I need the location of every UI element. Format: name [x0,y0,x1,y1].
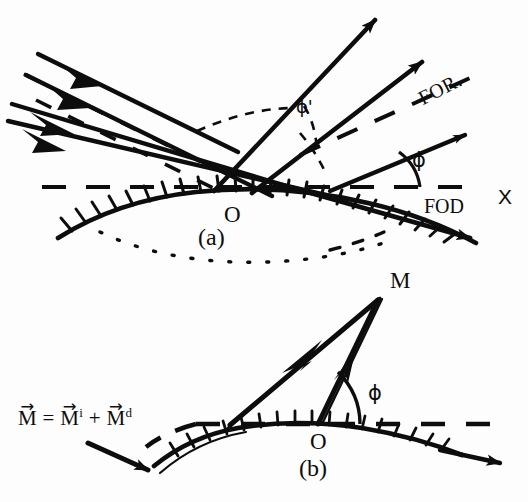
vector-arrow-icon: → [63,399,77,415]
panel-a-specular-ray [252,62,422,193]
formula-equals: = [43,406,55,430]
panel-a-reflected-ray-steep [214,20,375,191]
panel-b-surface-arrow [440,450,500,463]
panel-b-vector-tip-label: M [390,269,410,292]
panel-a-surface [58,189,476,243]
panel-b-origin-label: O [310,430,327,453]
panel-a-origin-label: O [224,203,241,226]
formula-term1-vector: →M [60,408,79,429]
panel-b-graphics [88,298,505,473]
formula-term2-vector: →M [106,408,125,429]
vector-arrow-icon: → [109,399,123,415]
panel-a-axis-x-label: X [498,186,512,207]
panel-a-phi-label: ϕ [412,150,426,171]
panel-a-graphics [8,20,478,262]
panel-a-phi-ray [330,135,465,191]
formula-plus: + [89,406,101,430]
panel-a-incident-rays [8,54,330,196]
vector-arrow-icon: → [20,399,34,415]
formula-term2-sup: d [125,405,132,420]
panel-a-phi-prime-label: ϕ' [296,98,313,116]
panel-b-caption: (b) [299,456,327,480]
panel-a-dotted-arc [100,232,392,262]
formula-term1-sup: i [79,405,83,420]
formula-lhs-vector: →M [18,408,37,429]
figure-root: ϕ' ϕ FOR. FOD X O (a) M ϕ O (b) →M = →Mi… [0,0,528,502]
panel-b-formula: →M = →Mi + →Md [18,406,132,429]
panel-a-caption: (a) [198,225,225,249]
panel-b-vector-component [318,299,382,424]
panel-b-formula-pointer-arrow [88,443,148,470]
panel-a-diffuse-label: FOD [424,196,464,216]
panel-b-phi-label: ϕ [368,383,382,404]
